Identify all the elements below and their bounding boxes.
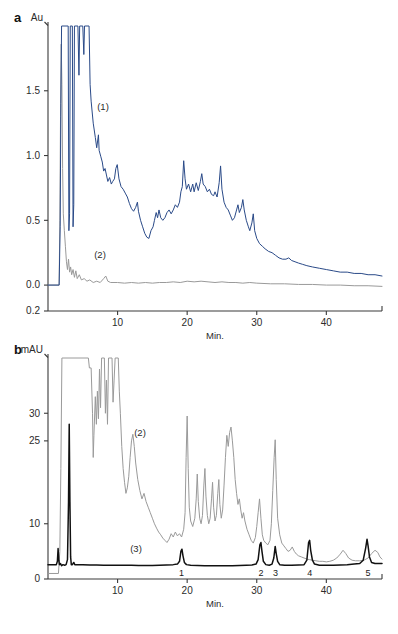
x-tick-label: 20: [182, 585, 194, 596]
trace-2: [48, 358, 382, 573]
y-tick-label: 0.5: [26, 215, 40, 226]
x-tick-label: 10: [112, 317, 124, 328]
trace-label: (3): [130, 543, 142, 554]
y-axis-unit: Au: [31, 12, 43, 23]
panel-b-plot: 0102530mAU10203040Min.(2)(3)12345: [0, 336, 398, 618]
chromatogram-figure: a 0.20.00.51.01.5Au10203040Min.(1)(2) b …: [0, 0, 398, 634]
peak-label: 4: [307, 568, 312, 578]
peak-label: 1: [179, 568, 184, 578]
trace-1: [48, 26, 382, 285]
peak-label: 3: [273, 568, 278, 578]
y-tick-label: 10: [29, 518, 41, 529]
trace-label: (2): [134, 427, 146, 438]
trace-3: [48, 424, 382, 565]
panel-b: b 0102530mAU10203040Min.(2)(3)12345: [0, 336, 398, 618]
y-tick-label: 25: [29, 435, 41, 446]
x-tick-label: 20: [182, 317, 194, 328]
panel-a-plot: 0.20.00.51.01.5Au10203040Min.(1)(2): [0, 0, 398, 340]
y-tick-label: 0.0: [26, 279, 40, 290]
panel-a: a 0.20.00.51.01.5Au10203040Min.(1)(2): [0, 0, 398, 340]
x-tick-label: 10: [112, 585, 124, 596]
x-tick-label: 30: [251, 585, 263, 596]
y-tick-label: 30: [29, 408, 41, 419]
figure-caption: [6, 622, 392, 633]
x-tick-label: 30: [251, 317, 263, 328]
y-tick-label: 1.5: [26, 85, 40, 96]
y-axis-unit: mAU: [21, 344, 43, 355]
x-axis-title: Min.: [206, 598, 224, 609]
peak-label: 2: [258, 568, 263, 578]
x-tick-label: 40: [321, 585, 333, 596]
trace-label: (1): [97, 101, 109, 112]
y-tick-label: 0: [34, 573, 40, 584]
peak-label: 5: [366, 568, 371, 578]
x-tick-label: 40: [321, 317, 333, 328]
y-tick-label: 1.0: [26, 150, 40, 161]
trace-label: (2): [94, 249, 106, 260]
y-tick-label: 0.2: [26, 305, 40, 316]
